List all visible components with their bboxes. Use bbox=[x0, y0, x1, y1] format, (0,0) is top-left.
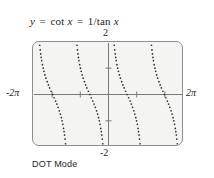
curve-dot bbox=[80, 67, 82, 69]
curve-dot bbox=[86, 87, 88, 89]
equation-title: y = cot x = 1/tan x bbox=[30, 15, 119, 27]
curve-dot bbox=[172, 117, 174, 119]
curve-dot bbox=[92, 100, 94, 102]
curve-dot bbox=[152, 53, 154, 55]
curve-dot bbox=[65, 143, 67, 145]
curve-dot bbox=[133, 110, 135, 112]
curve-dot bbox=[63, 131, 65, 133]
curve-dot bbox=[176, 143, 178, 145]
curve-dot bbox=[113, 44, 115, 46]
curve-dot bbox=[116, 64, 118, 66]
mode-caption: DOT Mode bbox=[32, 159, 77, 169]
curve-dot bbox=[101, 138, 103, 140]
curve-dot bbox=[165, 97, 167, 99]
curve-dot bbox=[64, 134, 66, 136]
curve-dot bbox=[129, 100, 131, 102]
curve-dot bbox=[62, 123, 64, 125]
curve-dot bbox=[153, 60, 155, 62]
curve-dot bbox=[97, 113, 99, 115]
curve-dot bbox=[94, 106, 96, 108]
curve-dot bbox=[137, 128, 139, 130]
curve-dot bbox=[118, 70, 120, 72]
cotangent-graph-figure: y = cot x = 1/tan x -2π 2π 2 - bbox=[0, 0, 214, 178]
curve-dot bbox=[156, 74, 158, 76]
curve-dot bbox=[101, 134, 103, 136]
curve-dot bbox=[78, 60, 80, 62]
curve-dot bbox=[134, 113, 136, 115]
curve-dot bbox=[162, 90, 164, 92]
curve-dot bbox=[60, 117, 62, 119]
curve-dot bbox=[93, 103, 95, 105]
curve-dot bbox=[100, 131, 102, 133]
curve-dot bbox=[126, 94, 128, 96]
curve-dot bbox=[40, 57, 42, 59]
curve-dot bbox=[100, 128, 102, 130]
curve-dot bbox=[115, 60, 117, 62]
curve-dot bbox=[48, 84, 50, 86]
curve-dot bbox=[85, 84, 87, 86]
curve-dot bbox=[120, 77, 122, 79]
curve-dot bbox=[138, 131, 140, 133]
curve-dot bbox=[39, 49, 41, 51]
curve-dot bbox=[176, 138, 178, 140]
curve-dot bbox=[131, 103, 133, 105]
curve-dot bbox=[157, 77, 159, 79]
curve-dot bbox=[58, 110, 60, 112]
curve-dot bbox=[39, 44, 41, 46]
curve-dot bbox=[167, 100, 169, 102]
curve-dot bbox=[77, 53, 79, 55]
curve-dot bbox=[136, 120, 138, 122]
curve-dot bbox=[161, 87, 163, 89]
x-axis-max-label: 2π bbox=[186, 87, 196, 98]
curve-dot bbox=[170, 110, 172, 112]
plot-canvas bbox=[33, 42, 183, 146]
curve-dot bbox=[42, 67, 44, 69]
calculator-screen bbox=[32, 41, 183, 146]
curve-dot bbox=[98, 120, 100, 122]
curve-dot bbox=[175, 131, 177, 133]
curve-dot bbox=[44, 74, 46, 76]
curve-dot bbox=[135, 117, 137, 119]
curve-dot bbox=[125, 90, 127, 92]
curve-dot bbox=[173, 120, 175, 122]
curve-dot bbox=[102, 143, 104, 145]
curve-dot bbox=[76, 44, 78, 46]
curve-dot bbox=[91, 97, 93, 99]
curve-dot bbox=[122, 84, 124, 86]
x-axis-min-label: -2π bbox=[6, 87, 19, 98]
curve-dot bbox=[55, 100, 57, 102]
curve-dot bbox=[96, 110, 98, 112]
curve-dot bbox=[154, 67, 156, 69]
curve-dot bbox=[155, 70, 157, 72]
curve-dot bbox=[136, 123, 138, 125]
curve-dot bbox=[99, 123, 101, 125]
curve-dot bbox=[79, 64, 81, 66]
curve-dot bbox=[164, 94, 166, 96]
curve-dot bbox=[168, 103, 170, 105]
curve-dot bbox=[153, 64, 155, 66]
curve-dot bbox=[61, 120, 63, 122]
curve-dot bbox=[49, 87, 51, 89]
curve-dot bbox=[50, 90, 52, 92]
curve-dot bbox=[114, 53, 116, 55]
curve-dot bbox=[88, 90, 90, 92]
curve-dot bbox=[175, 134, 177, 136]
curve-dot bbox=[45, 77, 47, 79]
curve-dot bbox=[40, 53, 42, 55]
curve-dot bbox=[89, 94, 91, 96]
y-axis-max-label: 2 bbox=[103, 27, 108, 38]
curve-dot bbox=[138, 134, 140, 136]
curve-dot bbox=[151, 44, 153, 46]
curve-dot bbox=[81, 74, 83, 76]
curve-dot bbox=[64, 138, 66, 140]
curve-dot bbox=[52, 94, 54, 96]
curve-dot bbox=[41, 60, 43, 62]
curve-dot bbox=[80, 70, 82, 72]
curve-dot bbox=[121, 81, 123, 83]
curve-dot bbox=[43, 70, 45, 72]
curve-dot bbox=[123, 87, 125, 89]
curve-dot bbox=[158, 81, 160, 83]
curve-dot bbox=[169, 106, 171, 108]
curve-dot bbox=[174, 123, 176, 125]
curve-dot bbox=[82, 77, 84, 79]
